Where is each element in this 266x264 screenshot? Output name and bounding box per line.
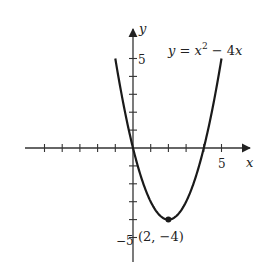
y-tick-label-neg5: −5 [116, 234, 134, 248]
equation-rest-var: x [235, 43, 243, 58]
vertex-marker [165, 217, 171, 223]
x-tick-label-5: 5 [218, 157, 226, 171]
equation-label: y = x2 − 4x [167, 41, 243, 58]
y-axis-label: y [138, 21, 147, 36]
vertex-label: (2, −4) [138, 229, 184, 244]
equation-rest: − 4 [208, 43, 235, 58]
y-tick-label-5: 5 [138, 53, 146, 67]
x-axis-label: x [246, 155, 254, 170]
parabola-curve [115, 59, 221, 220]
equation-eq: = [175, 43, 194, 58]
parabola-chart: y x 5 −5 5 (2, −4) y = x2 − 4x [0, 0, 266, 264]
